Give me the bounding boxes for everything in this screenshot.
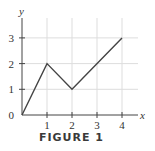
tick-marks bbox=[19, 38, 122, 118]
y-axis-label: y bbox=[18, 5, 24, 17]
y-tick-label: 2 bbox=[9, 58, 15, 70]
y-tick-label: 3 bbox=[9, 32, 15, 44]
line-chart: 12340123 x y bbox=[0, 0, 155, 151]
figure-caption: FIGURE 1 bbox=[0, 131, 149, 144]
y-tick-label: 1 bbox=[9, 83, 15, 95]
grid bbox=[22, 18, 138, 115]
y-tick-label: 0 bbox=[9, 109, 15, 121]
x-tick-label: 3 bbox=[94, 119, 100, 131]
axes bbox=[22, 18, 138, 115]
tick-labels: 12340123 bbox=[9, 32, 126, 131]
x-tick-label: 2 bbox=[69, 119, 75, 131]
x-tick-label: 1 bbox=[44, 119, 50, 131]
x-axis-label: x bbox=[139, 109, 145, 121]
x-tick-label: 4 bbox=[119, 119, 125, 131]
